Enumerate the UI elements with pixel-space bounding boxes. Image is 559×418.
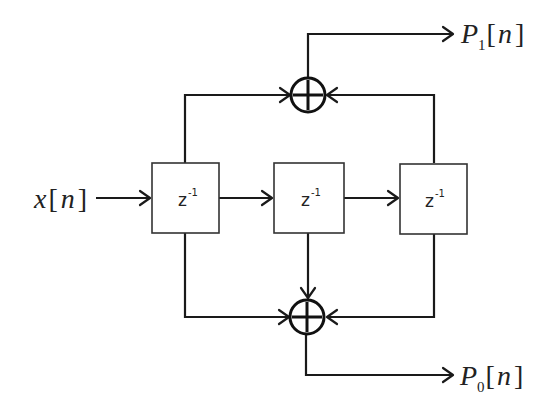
input-symbol: x [33,183,47,214]
p0-symbol: P [459,360,477,391]
input-label: x[n] [33,183,87,214]
delay-block-1: z -1 [152,163,219,233]
delay-1-exponent: -1 [188,187,198,198]
delay-2-exponent: -1 [311,187,321,198]
p1-index: n [498,18,512,49]
wire-delay1-to-top-adder [185,88,290,163]
delay-3-label: z [425,191,434,211]
svg-text:x[n]: x[n] [33,183,87,214]
bottom-adder-icon [290,300,324,334]
p1-symbol: P [460,18,478,49]
svg-text:P0[n]: P0[n] [459,360,523,395]
delay-3-exponent: -1 [435,188,445,199]
block-diagram: z -1 z -1 z -1 x[n] P1[n] P0[n] [0,0,559,418]
wire-delay1-to-bottom-adder [185,233,289,324]
output-label-p0: P0[n] [459,360,523,395]
p1-subscript: 1 [478,37,486,53]
wire-delay3-to-bottom-adder [327,234,434,324]
output-label-p1: P1[n] [460,18,524,53]
wire-delay3-to-top-adder [327,88,434,163]
wire-bottom-adder-to-p0 [306,335,453,382]
top-adder-icon [291,78,325,112]
p0-index: n [497,360,511,391]
delay-block-2: z -1 [274,163,344,233]
input-index: n [61,183,75,214]
delay-2-label: z [301,190,310,210]
p0-subscript: 0 [477,379,485,395]
wire-delay1-to-delay2 [219,191,272,205]
delay-1-label: z [178,190,187,210]
svg-text:P1[n]: P1[n] [460,18,524,53]
wire-top-adder-to-p1 [308,27,453,78]
wire-delay2-to-bottom-adder [301,233,315,298]
delay-block-3: z -1 [400,164,467,234]
input-wire [96,191,150,205]
wire-delay2-to-delay3 [344,191,398,205]
